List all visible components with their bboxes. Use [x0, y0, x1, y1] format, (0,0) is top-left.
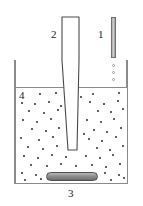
particle-dot	[39, 93, 41, 95]
beaker-bottom-wall	[14, 183, 128, 185]
particle-dot	[28, 110, 30, 112]
particle-dot	[97, 110, 99, 112]
particle-dot	[118, 174, 120, 176]
particle-dot	[80, 96, 82, 98]
particle-dot	[120, 127, 122, 129]
callout-label-1: 1	[98, 29, 104, 40]
particle-dot	[40, 178, 42, 180]
particle-dot	[45, 130, 47, 132]
dropper-rod	[111, 17, 116, 58]
particle-dot	[38, 139, 40, 141]
particle-dot	[37, 157, 39, 159]
particle-dot	[83, 133, 85, 135]
particle-dot	[122, 108, 124, 110]
particle-dot	[43, 112, 45, 114]
particle-dot	[93, 129, 95, 131]
particle-dot	[65, 156, 67, 158]
particle-dot	[55, 92, 57, 94]
particle-dot	[46, 165, 48, 167]
magnetic-stir-bar	[46, 172, 98, 181]
callout-label-4: 4	[19, 90, 25, 101]
particle-dot	[115, 136, 117, 138]
particle-dot	[57, 109, 59, 111]
particle-dot	[72, 113, 74, 115]
particle-dot	[117, 100, 119, 102]
callout-label-2: 2	[51, 29, 57, 40]
particle-dot	[67, 97, 69, 99]
particle-dot	[113, 118, 115, 120]
particle-dot	[100, 121, 102, 123]
particle-dot	[58, 127, 60, 129]
droplet	[112, 64, 115, 67]
particle-dot	[101, 140, 103, 142]
particle-dot	[103, 103, 105, 105]
particle-dot	[96, 147, 98, 149]
particle-dot	[118, 92, 120, 94]
particle-dot	[22, 119, 24, 121]
particle-dot	[88, 138, 90, 140]
particle-dot	[110, 179, 112, 181]
particle-dot	[52, 136, 54, 138]
particle-dot	[123, 177, 125, 179]
particle-dot	[60, 105, 62, 107]
particle-dot	[24, 179, 26, 181]
particle-dot	[85, 155, 87, 157]
particle-dot	[75, 165, 77, 167]
particle-dot	[122, 145, 124, 147]
particle-dot	[50, 118, 52, 120]
particle-dot	[91, 164, 93, 166]
apparatus-diagram: 1 2 3 4	[0, 0, 143, 206]
particle-dot	[35, 174, 37, 176]
particle-dot	[23, 155, 25, 157]
particle-dot	[20, 137, 22, 139]
liquid-suspension	[16, 88, 127, 183]
particle-dot	[21, 102, 23, 104]
particle-dot	[34, 103, 36, 105]
particle-dot	[106, 131, 108, 133]
particle-dot	[86, 119, 88, 121]
particle-dot	[92, 93, 94, 95]
particle-dot	[60, 163, 62, 165]
particle-dot	[36, 121, 38, 123]
droplet	[112, 71, 115, 74]
particle-dot	[109, 149, 111, 151]
callout-label-3: 3	[68, 188, 74, 199]
particle-dot	[89, 101, 91, 103]
particle-dot	[105, 166, 107, 168]
particle-dot	[56, 145, 58, 147]
particle-dot	[51, 154, 53, 156]
particle-dot	[42, 148, 44, 150]
particle-dot	[104, 172, 106, 174]
particle-dot	[99, 157, 101, 159]
particle-dot	[110, 111, 112, 113]
droplet	[112, 78, 115, 81]
liquid-surface-line	[15, 87, 127, 88]
particle-dot	[48, 101, 50, 103]
particle-dot	[21, 172, 23, 174]
particle-dot	[30, 164, 32, 166]
particle-dot	[27, 146, 29, 148]
particle-dot	[112, 154, 114, 156]
particle-dot	[119, 163, 121, 165]
particle-dot	[31, 128, 33, 130]
